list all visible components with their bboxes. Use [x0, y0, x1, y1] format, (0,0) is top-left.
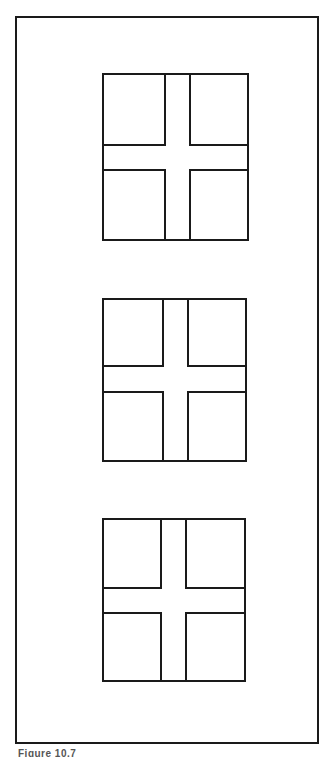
window-1	[102, 73, 249, 241]
pane-bottom-right	[185, 612, 246, 682]
pane-top-right	[187, 298, 247, 367]
pane-bottom-left	[102, 391, 164, 462]
pane-top-right	[185, 518, 246, 589]
pane-top-left	[102, 298, 164, 367]
pane-bottom-right	[189, 169, 249, 241]
pane-bottom-left	[102, 612, 162, 682]
pane-top-left	[102, 73, 166, 146]
figure-caption: Figure 10.7	[18, 749, 76, 757]
pane-bottom-left	[102, 169, 166, 241]
window-3	[102, 518, 246, 682]
pane-bottom-right	[187, 391, 247, 462]
window-2	[102, 298, 247, 462]
pane-top-left	[102, 518, 162, 589]
pane-top-right	[189, 73, 249, 146]
